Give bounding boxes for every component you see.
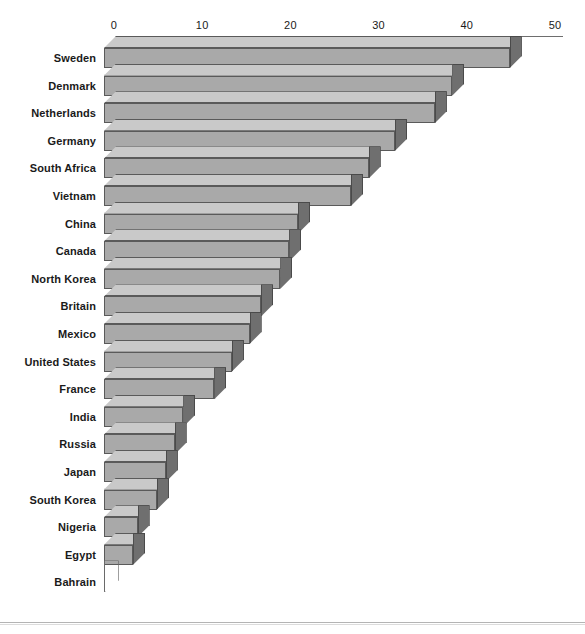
x-tick-40: 40	[460, 19, 473, 31]
bar-top-face	[104, 64, 464, 76]
bar-end-face	[261, 284, 273, 316]
bar-top-face	[104, 229, 301, 241]
bar-top-face	[104, 174, 363, 186]
bar-end-face	[395, 119, 407, 151]
bar-end-face	[214, 367, 226, 399]
bar-top-face	[104, 119, 407, 131]
category-label-mexico: Mexico	[58, 328, 96, 340]
bar-top-face	[104, 395, 195, 407]
category-label-canada: Canada	[56, 245, 96, 257]
x-tick-50: 50	[549, 19, 562, 31]
bar-end-face	[138, 505, 150, 537]
bar-end-face	[510, 36, 522, 68]
bar-end-face	[232, 340, 244, 372]
bar-end-face	[435, 91, 447, 123]
x-tick-20: 20	[284, 19, 297, 31]
category-label-egypt: Egypt	[65, 549, 96, 561]
category-label-south-korea: South Korea	[30, 494, 97, 506]
bar-zero-outline	[104, 560, 119, 592]
bar-top-face	[104, 312, 262, 324]
bar-end-face	[289, 229, 301, 261]
category-label-vietnam: Vietnam	[53, 190, 96, 202]
category-label-russia: Russia	[59, 438, 96, 450]
bar-top-face	[104, 36, 522, 48]
bar-top-face	[104, 340, 244, 352]
category-label-denmark: Denmark	[48, 80, 96, 92]
bar-end-face	[166, 450, 178, 482]
category-label-united-states: United States	[24, 356, 96, 368]
bar-top-face	[104, 257, 292, 269]
bar-end-face	[369, 146, 381, 178]
category-label-india: India	[70, 411, 96, 423]
bar-top-face	[104, 91, 447, 103]
bar-end-face	[157, 478, 169, 510]
bar-end-face	[351, 174, 363, 206]
category-label-france: France	[59, 383, 96, 395]
bar-end-face	[133, 533, 145, 565]
bar-end-face	[298, 202, 310, 234]
x-tick-0: 0	[111, 19, 117, 31]
bar-end-face	[452, 64, 464, 96]
bar-end-face	[183, 395, 195, 427]
bar-top-face	[104, 422, 187, 434]
frame-rule-secondary	[0, 624, 585, 625]
category-label-germany: Germany	[48, 135, 96, 147]
chart-container: 01020304050 SwedenDenmarkNetherlandsGerm…	[0, 0, 585, 634]
bar-end-face	[175, 422, 187, 454]
category-label-sweden: Sweden	[54, 52, 96, 64]
category-label-britain: Britain	[60, 300, 96, 312]
category-label-china: China	[65, 218, 96, 230]
bar-top-face	[104, 146, 381, 158]
category-label-netherlands: Netherlands	[31, 107, 96, 119]
category-label-nigeria: Nigeria	[58, 521, 96, 533]
bar-top-face	[104, 202, 310, 214]
x-tick-10: 10	[196, 19, 209, 31]
category-label-japan: Japan	[64, 466, 96, 478]
category-label-bahrain: Bahrain	[54, 576, 96, 588]
bar-end-face	[280, 257, 292, 289]
category-label-north-korea: North Korea	[31, 273, 96, 285]
plot-area: 01020304050 SwedenDenmarkNetherlandsGerm…	[0, 0, 585, 634]
x-tick-30: 30	[372, 19, 385, 31]
frame-rule-bottom	[0, 622, 585, 623]
bar-top-face	[104, 284, 273, 296]
category-label-south-africa: South Africa	[30, 162, 96, 174]
bar-end-face	[250, 312, 262, 344]
bar-top-face	[104, 367, 226, 379]
